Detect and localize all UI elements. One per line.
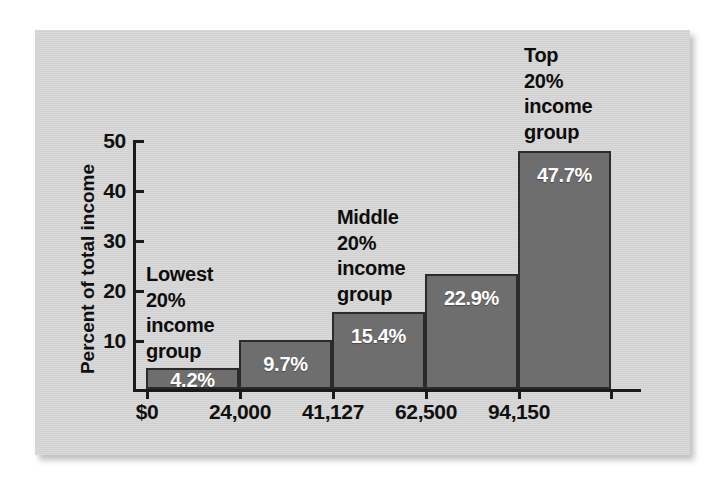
y-tick-40 [133,190,144,193]
y-tick-label-20: 20 [80,279,126,303]
x-tick-3 [425,389,428,399]
bar-value-4: 22.9% [427,287,516,310]
bar-value-3: 15.4% [334,325,423,348]
bar-value-5: 47.7% [520,164,609,187]
y-tick-10 [133,340,144,343]
y-tick-50 [133,140,144,143]
y-tick-label-10: 10 [80,329,126,353]
plot-area: Percent of total income 50 40 30 20 10 4… [0,0,728,484]
y-tick-30 [133,240,144,243]
x-tick-2 [332,389,335,399]
y-tick-label-40: 40 [80,179,126,203]
bar-value-2: 9.7% [241,353,330,376]
bar-quintile-3: 15.4% [332,312,425,389]
chart-figure: Percent of total income 50 40 30 20 10 4… [0,0,728,484]
y-tick-20 [133,290,144,293]
bar-quintile-4: 22.9% [425,274,518,389]
y-tick-label-50: 50 [80,129,126,153]
annotation-top-income-group: Top 20% income group [524,43,592,145]
x-tick-4 [518,389,521,399]
x-tick-0 [146,389,149,399]
x-tick-1 [239,389,242,399]
bar-quintile-5: 47.7% [518,151,611,389]
x-tick-label-4: 94,150 [464,400,574,424]
bar-quintile-2: 9.7% [239,340,332,389]
y-tick-label-30: 30 [80,229,126,253]
bar-quintile-1: 4.2% [146,368,239,389]
bar-value-1: 4.2% [148,369,237,392]
y-axis-line [133,140,136,391]
x-tick-5 [610,389,613,399]
annotation-middle-income-group: Middle 20% income group [337,205,405,307]
annotation-lowest-income-group: Lowest 20% income group [146,262,214,364]
